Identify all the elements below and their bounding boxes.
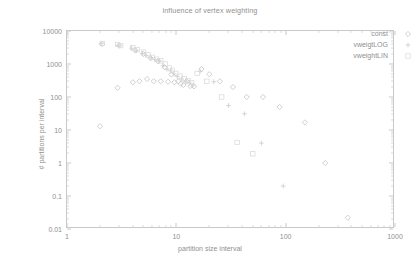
y-minor-tick xyxy=(67,153,69,154)
x-minor-tick xyxy=(280,31,281,33)
y-minor-tick xyxy=(391,131,393,132)
y-minor-tick xyxy=(67,40,69,41)
x-minor-tick xyxy=(209,31,210,33)
x-minor-tick xyxy=(252,225,253,227)
x-minor-tick xyxy=(165,225,166,227)
x-minor-tick xyxy=(370,225,371,227)
x-minor-tick xyxy=(132,225,133,227)
y-minor-tick xyxy=(67,67,69,68)
legend-label: vweightLIN xyxy=(353,52,402,59)
y-tick-label: 10 xyxy=(54,127,67,134)
legend-marker-plus-icon xyxy=(402,40,414,50)
x-minor-tick xyxy=(99,31,100,33)
x-minor-tick xyxy=(209,225,210,227)
data-point-plus xyxy=(226,103,231,108)
y-minor-tick xyxy=(67,131,69,132)
chart-legend: constvweigtLOGvweightLIN xyxy=(296,28,414,61)
x-minor-tick xyxy=(362,225,363,227)
data-point-plus xyxy=(259,141,264,146)
y-minor-tick xyxy=(67,139,69,140)
y-tick-mark xyxy=(67,163,71,164)
y-minor-tick xyxy=(67,201,69,202)
y-minor-tick xyxy=(67,168,69,169)
y-minor-tick xyxy=(67,102,69,103)
x-tick-mark xyxy=(176,31,177,35)
x-minor-tick xyxy=(384,225,385,227)
x-tick-label: 1 xyxy=(65,227,69,240)
x-tick-mark xyxy=(67,223,68,227)
x-minor-tick xyxy=(228,31,229,33)
y-minor-tick xyxy=(391,100,393,101)
y-tick-label: 1 xyxy=(58,160,67,167)
data-point-diamond xyxy=(244,94,249,99)
y-minor-tick xyxy=(67,98,69,99)
y-minor-tick xyxy=(67,213,69,214)
x-minor-tick xyxy=(242,31,243,33)
y-minor-tick xyxy=(67,197,69,198)
data-point-diamond xyxy=(323,160,328,165)
y-minor-tick xyxy=(67,73,69,74)
y-tick-mark xyxy=(67,196,71,197)
legend-marker-diamond-icon xyxy=(402,29,414,39)
y-minor-tick xyxy=(391,106,393,107)
y-tick-label: 0.1 xyxy=(52,193,67,200)
y-minor-tick xyxy=(67,81,69,82)
y-minor-tick xyxy=(391,65,393,66)
y-minor-tick xyxy=(391,139,393,140)
y-minor-tick xyxy=(391,176,393,177)
y-minor-tick xyxy=(391,71,393,72)
y-minor-tick xyxy=(391,209,393,210)
data-point-diamond xyxy=(115,85,120,90)
x-tick-mark xyxy=(285,31,286,35)
y-minor-tick xyxy=(391,172,393,173)
data-point-diamond xyxy=(405,31,410,36)
y-minor-tick xyxy=(67,36,69,37)
x-minor-tick xyxy=(159,31,160,33)
y-minor-tick xyxy=(391,164,393,165)
y-minor-tick xyxy=(391,166,393,167)
y-minor-tick xyxy=(67,135,69,136)
x-tick-mark xyxy=(67,31,68,35)
chart-title: influence of vertex weighting xyxy=(0,6,420,15)
y-tick-mark xyxy=(389,196,393,197)
x-minor-tick xyxy=(119,225,120,227)
y-minor-tick xyxy=(391,203,393,204)
data-point-square xyxy=(251,152,255,156)
y-minor-tick xyxy=(67,164,69,165)
y-minor-tick xyxy=(67,180,69,181)
chart-canvas: influence of vertex weighting # partitio… xyxy=(0,0,420,268)
data-point-diamond xyxy=(230,84,235,89)
y-minor-tick xyxy=(391,219,393,220)
y-tick-label: 1000 xyxy=(46,61,67,68)
x-tick-label: 100 xyxy=(280,227,292,240)
y-tick-mark xyxy=(67,130,71,131)
y-minor-tick xyxy=(391,180,393,181)
x-minor-tick xyxy=(242,225,243,227)
legend-entry: const xyxy=(296,28,414,39)
x-minor-tick xyxy=(275,225,276,227)
x-minor-tick xyxy=(152,225,153,227)
y-minor-tick xyxy=(67,170,69,171)
y-minor-tick xyxy=(391,77,393,78)
x-minor-tick xyxy=(132,31,133,33)
y-minor-tick xyxy=(67,172,69,173)
data-point-diamond xyxy=(144,76,149,81)
data-point-diamond xyxy=(158,79,163,84)
data-point-diamond xyxy=(260,94,265,99)
y-tick-label: 100 xyxy=(50,94,67,101)
y-minor-tick xyxy=(67,65,69,66)
data-point-square xyxy=(205,79,209,83)
data-point-square xyxy=(220,95,224,99)
x-minor-tick xyxy=(252,31,253,33)
y-minor-tick xyxy=(391,137,393,138)
y-tick-label: 10000 xyxy=(43,28,67,35)
y-minor-tick xyxy=(391,73,393,74)
x-minor-tick xyxy=(268,31,269,33)
y-minor-tick xyxy=(391,186,393,187)
y-minor-tick xyxy=(391,153,393,154)
y-tick-mark xyxy=(389,163,393,164)
data-point-square xyxy=(406,53,410,57)
y-minor-tick xyxy=(391,120,393,121)
y-tick-mark xyxy=(67,64,71,65)
x-minor-tick xyxy=(143,31,144,33)
